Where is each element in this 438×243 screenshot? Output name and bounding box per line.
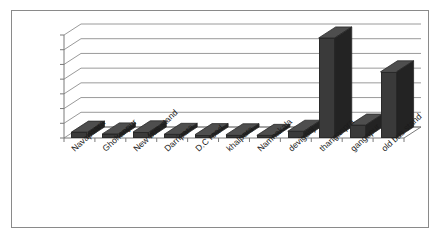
bar (350, 125, 366, 138)
bar (257, 135, 273, 138)
bar (226, 135, 242, 138)
bar (133, 132, 149, 138)
bar (164, 134, 180, 138)
chart-frame: 010000200003000040000500006000070000 Nav… (11, 10, 429, 228)
bar (102, 134, 118, 138)
bar (288, 131, 304, 138)
axes (60, 35, 404, 138)
bar (381, 72, 397, 138)
bar (71, 132, 87, 138)
gridlines (64, 24, 421, 138)
bar (319, 38, 335, 138)
y-axis-tick-labels: 010000200003000040000500006000070000 (12, 11, 64, 229)
bar (195, 135, 211, 138)
x-axis-ticks (64, 138, 404, 142)
plot-floor (81, 127, 421, 138)
plot-area: 010000200003000040000500006000070000 Nav… (12, 11, 430, 229)
chart-grid-and-axes (12, 11, 430, 229)
